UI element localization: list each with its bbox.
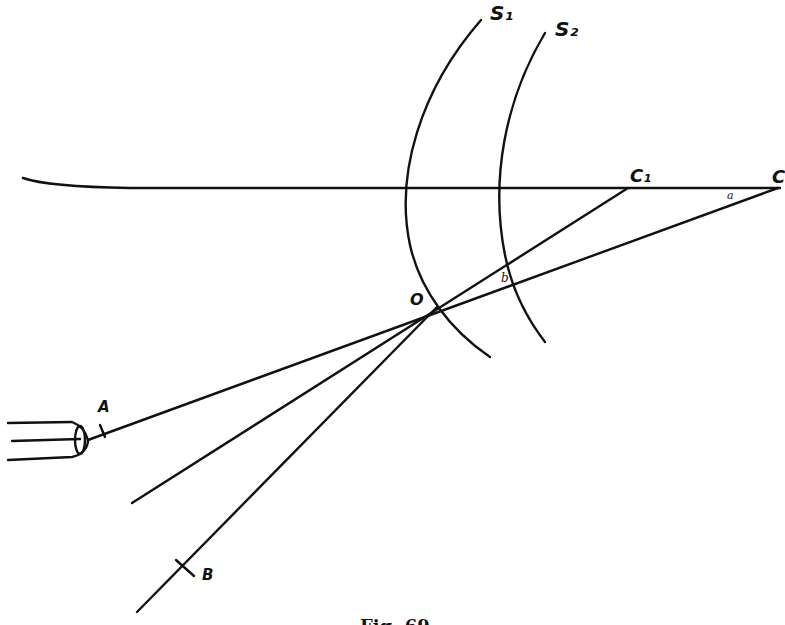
label-angle-a: a	[727, 189, 734, 202]
label-s1: S₁	[490, 1, 513, 25]
label-b: B	[202, 566, 213, 584]
label-o: O	[410, 290, 424, 309]
optical-axis-line	[23, 178, 780, 188]
label-c1: C₁	[630, 165, 651, 186]
label-a: A	[97, 398, 110, 416]
label-angle-b: b	[501, 271, 509, 285]
label-s2: S₂	[555, 17, 578, 41]
ray-c-a	[88, 188, 778, 440]
label-c: C	[772, 166, 785, 187]
ray-c1-o	[132, 188, 628, 503]
telescope-icon	[8, 422, 88, 460]
optics-diagram: S₁ S₂ C₁ C O A B b a Fig. 69	[0, 0, 785, 625]
figure-caption: Fig. 69	[360, 616, 430, 625]
